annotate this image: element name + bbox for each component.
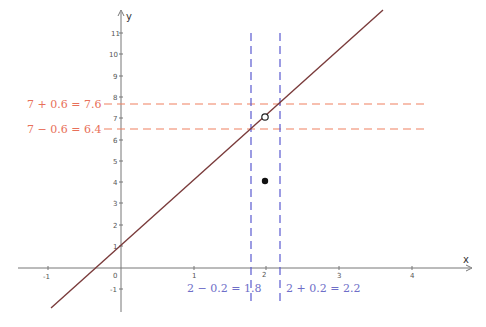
y-tick-label: 3: [113, 200, 117, 208]
plot-canvas: x y -1 0 1 2 3 4 11 10 9 8 7 6 5 4: [0, 0, 486, 327]
x-axis-label: x: [463, 254, 469, 265]
upper-bound-label: 7 + 0.6 = 7.6: [27, 98, 101, 111]
function-line: [51, 10, 383, 308]
y-tick-label: 8: [113, 94, 117, 102]
y-tick-label: 4: [113, 179, 118, 187]
origin-label: 0: [113, 272, 117, 280]
vertical-bands: 2 − 0.2 = 1.8 2 + 0.2 = 2.2: [187, 33, 360, 302]
y-tick-label: 6: [113, 137, 118, 145]
x-tick-label: 3: [337, 272, 341, 280]
y-tick-label: 5: [113, 158, 117, 166]
x-tick-label: 2: [262, 271, 266, 279]
x-tick-label: 1: [192, 272, 196, 280]
horizontal-bands: 7 + 0.6 = 7.6 7 − 0.6 = 6.4: [27, 98, 428, 136]
y-tick-label: 7: [113, 115, 117, 123]
y-tick-label: -1: [110, 286, 117, 294]
left-bound-label: 2 − 0.2 = 1.8: [187, 282, 261, 295]
y-tick-label: 11: [111, 30, 120, 38]
right-bound-label: 2 + 0.2 = 2.2: [286, 282, 360, 295]
x-tick-label: 4: [410, 272, 415, 280]
y-tick-label: 2: [113, 222, 117, 230]
y-tick-label: 9: [113, 73, 117, 81]
y-axis-label: y: [126, 11, 132, 22]
filled-point: [262, 178, 268, 184]
x-tick-label: -1: [43, 273, 50, 281]
lower-bound-label: 7 − 0.6 = 6.4: [27, 123, 101, 136]
axes: x y: [18, 10, 472, 312]
y-tick-label: 10: [109, 51, 118, 59]
open-point-hole: [262, 114, 268, 120]
